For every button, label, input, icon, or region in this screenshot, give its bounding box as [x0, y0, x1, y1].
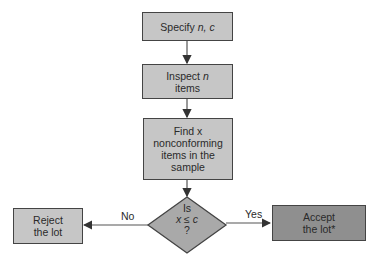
no-label: No	[121, 210, 134, 222]
node-accept: Acceptthe lot*	[272, 205, 366, 241]
yes-label: Yes	[245, 208, 262, 220]
decision-text: Is x ≤ c ?	[166, 203, 208, 236]
node-inspect: Inspect nitems	[142, 64, 233, 99]
specify-text: Specify n, c	[160, 21, 214, 33]
find-text: Find x nonconforming items in the sample	[148, 125, 228, 173]
node-specify: Specify n, c	[142, 12, 233, 41]
node-reject: Rejectthe lot	[13, 208, 83, 244]
inspect-text: Inspect nitems	[166, 70, 209, 94]
node-find: Find x nonconforming items in the sample	[143, 118, 233, 180]
